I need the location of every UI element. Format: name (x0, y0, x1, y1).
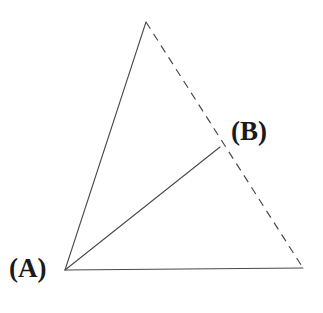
vertex-label-a: (A) (9, 255, 46, 282)
geometry-diagram: (A) (B) (0, 0, 323, 313)
segment-apex-to-a (65, 22, 146, 270)
segment-a-to-right (65, 268, 303, 270)
segment-apex-to-right-dashed (146, 22, 303, 268)
vertex-label-b: (B) (231, 118, 267, 145)
segment-a-to-b (65, 147, 220, 270)
geometry-canvas (0, 0, 323, 313)
